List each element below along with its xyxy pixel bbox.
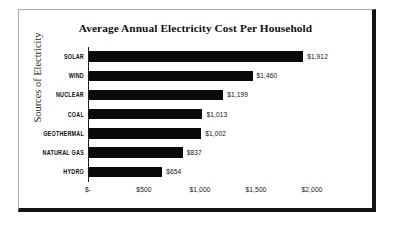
chart-figure-frame: Average Annual Electricity Cost Per Hous…: [18, 9, 376, 212]
bar-value-label: $1,013: [206, 105, 227, 124]
x-tick-label: $1,500: [245, 186, 266, 193]
bar: [89, 71, 253, 81]
category-label: HYDRO: [63, 158, 84, 186]
bar-row: SOLAR$1,912: [88, 47, 364, 66]
bar: [89, 109, 202, 119]
bar-value-label: $1,002: [205, 124, 226, 143]
bar: [89, 128, 201, 138]
bar-value-label: $837: [187, 143, 202, 162]
x-axis-tick-labels: $-$500$1,000$1,500$2,000: [88, 186, 364, 200]
bar: [89, 147, 183, 157]
bar-row: GEOTHERMAL$1,002: [88, 124, 364, 143]
bar: [89, 90, 223, 100]
x-tick-label: $-: [85, 186, 91, 193]
bar-value-label: $1,199: [227, 85, 248, 104]
x-tick-label: $1,000: [189, 186, 210, 193]
bar: [89, 51, 303, 61]
bar-row: COAL$1,013: [88, 105, 364, 124]
plot-area: SOLAR$1,912WIND$1,460NUCLEAR$1,199COAL$1…: [88, 47, 364, 182]
bar-value-label: $654: [166, 162, 181, 181]
bar-value-label: $1,460: [257, 66, 278, 85]
bar-value-label: $1,912: [307, 47, 328, 66]
chart-title: Average Annual Electricity Cost Per Hous…: [19, 22, 372, 34]
bar: [89, 167, 162, 177]
y-axis-title: Sources of Electricity: [32, 18, 43, 138]
x-tick-label: $500: [136, 186, 151, 193]
bar-row: WIND$1,460: [88, 66, 364, 85]
bar-row: HYDRO$654: [88, 162, 364, 181]
x-tick-label: $2,000: [301, 186, 322, 193]
bar-row: NATURAL GAS$837: [88, 143, 364, 162]
bar-row: NUCLEAR$1,199: [88, 85, 364, 104]
